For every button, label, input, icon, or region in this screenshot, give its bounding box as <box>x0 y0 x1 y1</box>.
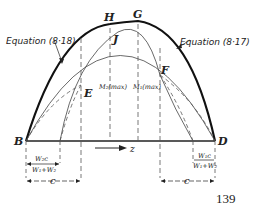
dim-arrow <box>210 179 214 183</box>
z-axis-arrow-head <box>119 145 127 151</box>
point-label-B: B <box>13 135 23 148</box>
dashed-curve-right-2 <box>160 75 193 141</box>
axis-label-z: z <box>129 144 135 154</box>
moment-label-right: M₁(max) <box>132 83 162 91</box>
point-label-E: E <box>83 87 93 100</box>
moment-envelope-diagram: H G J E F B D Equation (8·18) Equation (… <box>0 0 257 211</box>
point-label-D: D <box>217 135 228 148</box>
point-label-H: H <box>103 11 115 24</box>
dim-arrow <box>27 162 31 166</box>
equation-label-left: Equation (8·18) <box>6 36 76 46</box>
dim-arrow <box>76 179 80 183</box>
point-label-F: F <box>160 64 170 77</box>
equation-label-right: Equation (8·17) <box>180 37 250 47</box>
point-label-J: J <box>111 33 119 46</box>
dashed-curve-left-2 <box>60 85 81 141</box>
point-label-G: G <box>133 8 142 21</box>
dim-left-fraction-denominator: W₁+W₂ <box>32 166 56 174</box>
page-number: 139 <box>216 191 236 206</box>
dim-right-fraction-numerator: W₁c <box>198 152 211 160</box>
dim-left-fraction-numerator: W₂c <box>35 155 48 163</box>
dim-left-c-label: c <box>50 175 56 186</box>
dim-right-fraction-denominator: W₁+W₂ <box>193 162 217 170</box>
dim-arrow <box>27 179 31 183</box>
moment-label-left: M₂(max) <box>98 83 128 91</box>
dim-right-c-label: c <box>184 175 190 186</box>
dim-arrow <box>161 179 165 183</box>
